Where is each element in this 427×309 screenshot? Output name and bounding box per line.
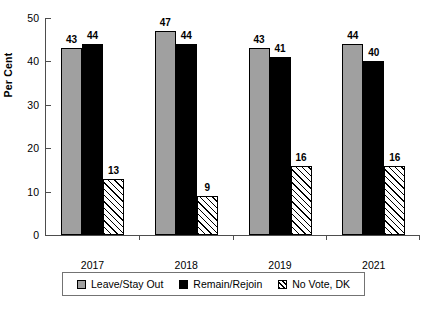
y-axis-tick-mark: [46, 148, 51, 149]
legend-swatch-icon: [278, 280, 287, 289]
bar-chart-figure: Per Cent 01020304050 4344134744943411644…: [0, 0, 427, 309]
bar: [249, 48, 270, 235]
bar: [176, 44, 197, 235]
legend-item-label: No Vote, DK: [292, 278, 350, 290]
bar: [384, 166, 405, 235]
plot-area: 01020304050 43441347449434116444016 2017…: [45, 18, 420, 235]
y-axis-tick-label: 0: [7, 229, 39, 241]
y-axis-tick-label: 50: [7, 12, 39, 24]
y-axis-tick-label: 30: [7, 99, 39, 111]
x-axis-tick-label: 2021: [334, 259, 414, 271]
bar: [82, 44, 103, 235]
bar-value-label: 16: [281, 152, 321, 164]
bar-value-label: 44: [166, 30, 206, 42]
legend-item[interactable]: No Vote, DK: [278, 278, 350, 290]
bar: [342, 44, 363, 235]
bar: [363, 61, 384, 235]
x-axis-tick-label: 2018: [146, 259, 226, 271]
chart-legend: Leave/Stay OutRemain/RejoinNo Vote, DK: [62, 272, 365, 296]
x-axis-tick-label: 2017: [53, 259, 133, 271]
y-axis-tick-mark: [46, 192, 51, 193]
bar-value-label: 16: [375, 152, 415, 164]
y-axis-tick-mark: [46, 105, 51, 106]
legend-swatch-icon: [179, 280, 188, 289]
y-axis-tick-label: 20: [7, 142, 39, 154]
bar: [61, 48, 82, 235]
x-axis-tick-mark: [419, 235, 420, 240]
bar: [103, 179, 124, 235]
y-axis-tick-label: 10: [7, 186, 39, 198]
bar-value-label: 41: [260, 43, 300, 55]
bar-value-label: 47: [145, 17, 185, 29]
legend-swatch-icon: [77, 280, 86, 289]
bar-value-label: 40: [354, 47, 394, 59]
bar-value-label: 44: [73, 30, 113, 42]
bar: [197, 196, 218, 235]
legend-item[interactable]: Remain/Rejoin: [179, 278, 262, 290]
x-axis-tick-mark: [233, 235, 234, 240]
x-axis-tick-mark: [326, 235, 327, 240]
y-axis-tick-mark: [46, 18, 51, 19]
y-axis-tick-mark: [46, 235, 51, 236]
bar-value-label: 9: [187, 182, 227, 194]
legend-item[interactable]: Leave/Stay Out: [77, 278, 163, 290]
bar: [291, 166, 312, 235]
legend-item-label: Leave/Stay Out: [91, 278, 163, 290]
bar: [270, 57, 291, 235]
y-axis-tick-mark: [46, 61, 51, 62]
legend-item-label: Remain/Rejoin: [193, 278, 262, 290]
y-axis-tick-label: 40: [7, 55, 39, 67]
bar: [155, 31, 176, 235]
x-axis-tick-mark: [139, 235, 140, 240]
bar-value-label: 44: [333, 30, 373, 42]
x-axis-tick-label: 2019: [240, 259, 320, 271]
bar-value-label: 13: [94, 165, 134, 177]
